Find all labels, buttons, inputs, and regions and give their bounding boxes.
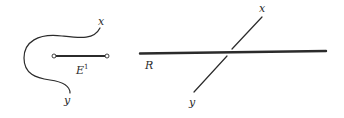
crossing-label-x: x	[259, 2, 266, 15]
crossing-line-lower	[194, 56, 227, 92]
curve-path	[24, 28, 100, 93]
segment-label-base: E	[75, 64, 84, 77]
segment-label: E1	[75, 63, 89, 77]
segment-endpoint-right	[105, 54, 109, 58]
curve-label-y: y	[63, 94, 71, 107]
segment-label-superscript: 1	[84, 63, 88, 71]
line-r-label: R	[144, 59, 153, 72]
crossing-label-y: y	[188, 96, 196, 109]
figure-canvas: x y E1 R x y	[0, 0, 344, 118]
line-r	[140, 51, 326, 54]
segment-endpoint-left	[52, 54, 56, 58]
crossing-line-upper	[232, 17, 262, 49]
right-panel: R x y	[140, 2, 326, 109]
left-panel: x y E1	[24, 15, 109, 107]
curve-label-x: x	[98, 15, 105, 28]
